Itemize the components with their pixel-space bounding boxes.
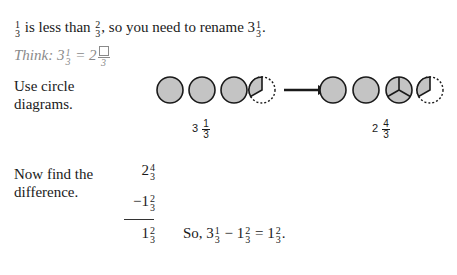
conclusion-text: = 1 xyxy=(251,225,274,241)
denominator: 3 xyxy=(150,203,155,212)
think-hint: Think: 313 = 23 xyxy=(14,46,111,67)
conclusion-text: So, 3 xyxy=(183,225,214,241)
denominator: 3 xyxy=(95,29,100,38)
denominator: 3 xyxy=(215,235,220,244)
denominator: 3 xyxy=(245,235,250,244)
subtrahend: −123 xyxy=(122,193,156,212)
denominator: 3 xyxy=(15,29,20,38)
intro-text: . xyxy=(262,19,266,35)
sum-rule xyxy=(124,219,154,220)
denominator: 3 xyxy=(276,235,281,244)
full-circle-icon xyxy=(353,77,379,103)
one-third-circle-icon xyxy=(249,77,275,103)
intro-sentence: 13 is less than 23, so you need to renam… xyxy=(14,19,266,38)
full-circle-icon xyxy=(221,77,247,103)
one-third-circle-icon xyxy=(417,77,443,103)
instruction-line: Use circle xyxy=(14,77,74,95)
whole-number: 1 xyxy=(142,193,150,209)
fraction: 23 xyxy=(150,194,155,212)
full-circle-icon xyxy=(157,77,183,103)
fraction: 13 xyxy=(215,226,220,244)
instruction-line: difference. xyxy=(14,183,93,201)
full-circle-icon xyxy=(189,77,215,103)
fraction: 13 xyxy=(202,119,210,140)
denominator: 3 xyxy=(150,235,155,244)
fraction: 43 xyxy=(150,163,155,181)
equals-text: = 2 xyxy=(71,47,96,63)
intro-text: is less than xyxy=(21,19,94,35)
difference-instruction: Now find the difference. xyxy=(14,165,93,201)
fraction: 23 xyxy=(245,226,250,244)
think-label: Think: 3 xyxy=(14,47,64,63)
denominator: 3 xyxy=(65,57,70,66)
whole-number: 1 xyxy=(142,225,150,241)
circle-instruction: Use circle diagrams. xyxy=(14,77,74,113)
minus-sign: − xyxy=(133,193,141,209)
fraction-with-blank: 3 xyxy=(98,46,110,67)
left-diagram-label: 3 13 xyxy=(192,119,211,140)
intro-text: , so you need to rename 3 xyxy=(101,19,255,35)
fraction: 23 xyxy=(276,226,281,244)
right-diagram-label: 2 43 xyxy=(372,119,391,140)
conclusion-text: . xyxy=(282,225,286,241)
minuend: 243 xyxy=(136,162,156,181)
denominator: 3 xyxy=(202,130,210,140)
circle-diagrams xyxy=(150,68,457,114)
whole-number: 2 xyxy=(142,162,150,178)
whole-number: 3 xyxy=(192,122,198,134)
result: 123 xyxy=(136,225,156,244)
right-diagram xyxy=(320,77,443,103)
fraction: 13 xyxy=(65,48,70,66)
left-diagram xyxy=(157,77,275,103)
fraction: 13 xyxy=(256,20,261,38)
fraction: 23 xyxy=(150,226,155,244)
conclusion-text: − 1 xyxy=(221,225,244,241)
fraction: 13 xyxy=(15,20,20,38)
fraction: 23 xyxy=(95,20,100,38)
full-circle-icon xyxy=(320,77,346,103)
fraction: 43 xyxy=(382,119,390,140)
whole-number: 2 xyxy=(372,122,378,134)
denominator: 3 xyxy=(98,58,110,67)
instruction-line: diagrams. xyxy=(14,95,74,113)
denominator: 3 xyxy=(150,172,155,181)
denominator: 3 xyxy=(256,29,261,38)
instruction-line: Now find the xyxy=(14,165,93,183)
conclusion: So, 313 − 123 = 123. xyxy=(183,225,286,244)
denominator: 3 xyxy=(382,130,390,140)
circle-split-thirds-icon xyxy=(386,77,412,103)
